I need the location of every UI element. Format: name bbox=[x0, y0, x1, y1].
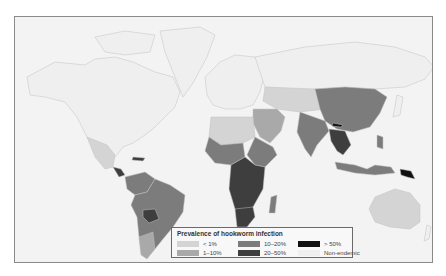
world-map bbox=[14, 16, 433, 263]
legend-item-10-20: 10–20% bbox=[238, 241, 286, 247]
legend-label: Non-endemic bbox=[324, 250, 360, 256]
region-indonesia bbox=[335, 162, 395, 175]
region-japan bbox=[393, 95, 403, 117]
region-europe bbox=[205, 55, 265, 109]
region-north-africa bbox=[209, 117, 255, 145]
region-arctic-canada bbox=[95, 31, 155, 55]
legend-swatch bbox=[298, 250, 320, 256]
legend-swatch bbox=[238, 241, 260, 247]
legend-swatch bbox=[238, 250, 260, 256]
legend-title: Prevalence of hookworm infection bbox=[177, 230, 283, 237]
legend-label: < 1% bbox=[203, 241, 217, 247]
legend-swatch bbox=[298, 241, 320, 247]
legend-swatch bbox=[177, 241, 199, 247]
legend-item-non-endemic: Non-endemic bbox=[298, 250, 360, 256]
legend-swatch bbox=[177, 250, 199, 256]
legend-label: > 50% bbox=[324, 241, 341, 247]
legend-label: 1–10% bbox=[203, 250, 222, 256]
region-middle-east bbox=[253, 109, 285, 143]
legend-item-lt1: < 1% bbox=[177, 241, 217, 247]
region-madagascar bbox=[269, 195, 277, 213]
map-legend: Prevalence of hookworm infection < 1% 1–… bbox=[171, 227, 353, 258]
region-southern-cone bbox=[139, 232, 155, 259]
legend-item-1-10: 1–10% bbox=[177, 250, 222, 256]
legend-item-20-50: 20–50% bbox=[238, 250, 286, 256]
legend-item-gt50: > 50% bbox=[298, 241, 341, 247]
region-papua-new-guinea bbox=[400, 169, 415, 179]
region-caribbean bbox=[132, 157, 145, 161]
region-russia bbox=[255, 42, 433, 92]
region-southeast-asia bbox=[329, 129, 351, 155]
region-new-zealand bbox=[424, 225, 431, 241]
region-southern-africa bbox=[235, 207, 255, 227]
legend-label: 20–50% bbox=[264, 250, 286, 256]
region-philippines bbox=[377, 135, 383, 149]
legend-label: 10–20% bbox=[264, 241, 286, 247]
region-central-america bbox=[113, 167, 125, 177]
region-australia bbox=[369, 189, 420, 229]
